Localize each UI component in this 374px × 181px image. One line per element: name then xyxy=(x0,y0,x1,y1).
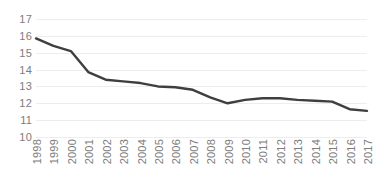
x-tick-label: 2001 xyxy=(83,139,95,164)
series-line-1 xyxy=(36,19,367,137)
x-tick-label: 2015 xyxy=(327,139,339,164)
y-tick-label: 16 xyxy=(19,30,32,42)
x-tick-label: 2002 xyxy=(101,139,113,164)
x-tick-label: 2011 xyxy=(257,139,269,163)
x-tick-label: 2008 xyxy=(205,139,217,164)
x-tick-label: 2004 xyxy=(136,139,148,164)
x-tick-label: 2016 xyxy=(345,139,357,164)
x-tick-label: 2013 xyxy=(292,139,304,164)
x-axis: 1998199920002001200220032004200520062007… xyxy=(36,139,367,181)
x-tick-label: 2006 xyxy=(170,139,182,164)
x-tick-label: 2009 xyxy=(223,139,235,164)
x-tick-label: 2017 xyxy=(362,139,374,164)
x-tick-label: 2012 xyxy=(275,139,287,164)
y-tick-label: 13 xyxy=(19,80,32,92)
y-tick-label: 14 xyxy=(19,64,32,76)
x-tick-label: 2010 xyxy=(240,139,252,164)
y-tick-label: 12 xyxy=(19,97,32,109)
series-polyline xyxy=(36,38,367,110)
x-tick-label: 1999 xyxy=(48,139,60,164)
x-tick-label: 2014 xyxy=(310,139,322,164)
x-tick-label: 1998 xyxy=(31,139,43,164)
plot-area xyxy=(36,19,367,137)
x-tick-label: 2003 xyxy=(118,139,130,164)
x-tick-label: 2007 xyxy=(188,139,200,164)
x-tick-label: 2000 xyxy=(66,139,78,164)
gridline-y-10 xyxy=(36,137,367,138)
x-tick-label: 2005 xyxy=(153,139,165,164)
y-tick-label: 11 xyxy=(20,114,32,126)
y-tick-label: 17 xyxy=(19,13,32,25)
y-tick-label: 15 xyxy=(19,47,32,59)
